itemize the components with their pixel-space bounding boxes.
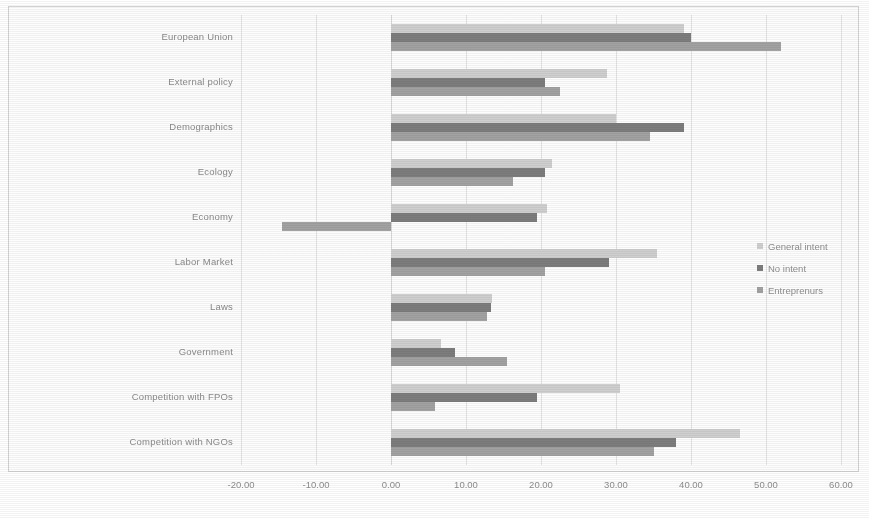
bar: [282, 222, 391, 231]
bar-group: [241, 69, 841, 96]
x-axis-tick-label: 0.00: [382, 479, 401, 490]
bar: [391, 69, 607, 78]
bar: [391, 267, 545, 276]
legend-item[interactable]: General intent: [757, 235, 869, 257]
bar: [391, 393, 537, 402]
x-axis-tick-label: 30.00: [604, 479, 628, 490]
bar-group: [241, 204, 841, 231]
x-axis-tick-label: -10.00: [303, 479, 330, 490]
bar: [391, 348, 455, 357]
bar: [391, 357, 507, 366]
bar: [391, 339, 441, 348]
legend-swatch-icon: [757, 287, 763, 293]
category-label: Laws: [13, 301, 233, 312]
bar: [391, 87, 560, 96]
x-axis-tick-label: 40.00: [679, 479, 703, 490]
legend-swatch-icon: [757, 243, 763, 249]
legend-label: No intent: [768, 263, 806, 274]
x-axis-tick-label: -20.00: [228, 479, 255, 490]
x-axis: -20.00-10.000.0010.0020.0030.0040.0050.0…: [9, 473, 860, 497]
category-label: External policy: [13, 76, 233, 87]
legend-item[interactable]: No intent: [757, 257, 869, 279]
bar: [391, 249, 657, 258]
category-label: Competition with FPOs: [13, 391, 233, 402]
bar: [391, 159, 552, 168]
x-axis-tick-label: 20.00: [529, 479, 553, 490]
bar: [391, 438, 676, 447]
bar: [391, 312, 487, 321]
legend-item[interactable]: Entreprenurs: [757, 279, 869, 301]
x-axis-tick-label: 10.00: [454, 479, 478, 490]
bar: [391, 204, 547, 213]
bar: [391, 402, 435, 411]
bar-group: [241, 114, 841, 141]
bar: [391, 33, 691, 42]
category-label: European Union: [13, 31, 233, 42]
bar: [391, 384, 620, 393]
bar: [391, 177, 513, 186]
bar: [391, 429, 740, 438]
bar-group: [241, 294, 841, 321]
legend-label: General intent: [768, 241, 828, 252]
bar: [391, 294, 492, 303]
category-label: Ecology: [13, 166, 233, 177]
category-label: Economy: [13, 211, 233, 222]
chart-frame: European UnionExternal policyDemographic…: [8, 6, 859, 472]
bar: [391, 123, 684, 132]
category-label: Demographics: [13, 121, 233, 132]
bar: [391, 168, 545, 177]
bar-group: [241, 24, 841, 51]
bar-group: [241, 159, 841, 186]
bar: [391, 447, 654, 456]
bar: [391, 258, 609, 267]
bar: [391, 303, 491, 312]
bar: [391, 213, 537, 222]
bar: [391, 42, 781, 51]
plot-area: [241, 15, 841, 465]
bar-group: [241, 339, 841, 366]
x-axis-tick-label: 60.00: [829, 479, 853, 490]
x-axis-tick-label: 50.00: [754, 479, 778, 490]
bar-group: [241, 429, 841, 456]
category-label: Government: [13, 346, 233, 357]
legend-label: Entreprenurs: [768, 285, 823, 296]
chart-legend: General intentNo intentEntreprenurs: [757, 235, 869, 301]
category-label: Competition with NGOs: [13, 436, 233, 447]
bar: [391, 132, 650, 141]
bar: [391, 24, 684, 33]
bar: [391, 114, 616, 123]
bar: [391, 78, 545, 87]
bar-group: [241, 384, 841, 411]
legend-swatch-icon: [757, 265, 763, 271]
category-label: Labor Market: [13, 256, 233, 267]
bar-group: [241, 249, 841, 276]
